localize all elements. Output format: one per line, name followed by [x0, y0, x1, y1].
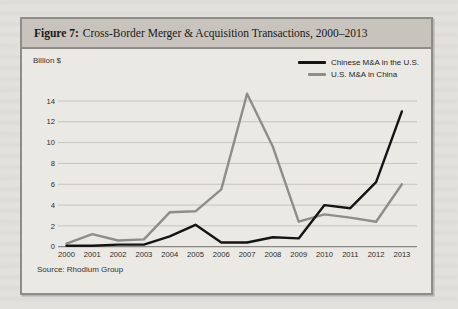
legend-label: Chinese M&A in the U.S. [331, 58, 419, 67]
scanned-page: { "figure": { "label": "Figure 7:", "tit… [0, 0, 458, 309]
x-tick-label: 2005 [187, 250, 204, 259]
x-tick-label: 2011 [342, 250, 358, 259]
y-tick-label: 10 [47, 138, 55, 147]
x-tick-label: 2008 [264, 250, 281, 259]
y-tick-label: 14 [47, 97, 55, 106]
legend-label: U.S. M&A in China [331, 70, 397, 79]
x-tick-label: 2007 [239, 250, 256, 259]
y-tick-label: 4 [51, 201, 55, 210]
x-tick-label: 2009 [290, 250, 307, 259]
figure-title-bar: Figure 7:Cross-Border Merger & Acquisiti… [22, 19, 431, 49]
x-tick-label: 2004 [161, 250, 178, 259]
legend-item-us-ma-china: U.S. M&A in China [272, 69, 419, 81]
x-tick-label: 2002 [110, 250, 127, 259]
figure-number-label: Figure 7: [34, 27, 79, 39]
legend-item-chinese-ma-us: Chinese M&A in the U.S. [272, 57, 419, 69]
x-tick-label: 2001 [84, 250, 101, 259]
series-line-us-ma-china [67, 94, 402, 244]
x-tick-label: 2010 [316, 250, 333, 259]
legend-swatch-cell [272, 73, 326, 76]
x-tick-label: 2013 [393, 250, 410, 259]
chart-legend: Chinese M&A in the U.S. U.S. M&A in Chin… [272, 57, 419, 80]
y-tick-label: 12 [47, 117, 55, 126]
legend-line-swatch-black [298, 61, 326, 64]
source-attribution: Source: Rhodium Group [37, 265, 123, 274]
x-tick-label: 2000 [58, 250, 75, 259]
figure-title: Cross-Border Merger & Acquisition Transa… [83, 27, 368, 39]
figure-box: Figure 7:Cross-Border Merger & Acquisiti… [20, 17, 433, 295]
x-tick-label: 2006 [213, 250, 230, 259]
y-tick-label: 0 [51, 242, 55, 251]
y-tick-label: 8 [51, 159, 55, 168]
y-tick-label: 6 [51, 180, 55, 189]
legend-swatch-cell [272, 61, 326, 64]
line-chart: 0246810121420002001200220032004200520062… [22, 49, 431, 293]
chart-area: 0246810121420002001200220032004200520062… [22, 49, 431, 293]
x-tick-label: 2003 [135, 250, 152, 259]
y-axis-unit-label: Billion $ [33, 56, 61, 65]
x-tick-label: 2012 [368, 250, 385, 259]
y-tick-label: 2 [51, 222, 55, 231]
legend-line-swatch-gray [308, 73, 326, 76]
